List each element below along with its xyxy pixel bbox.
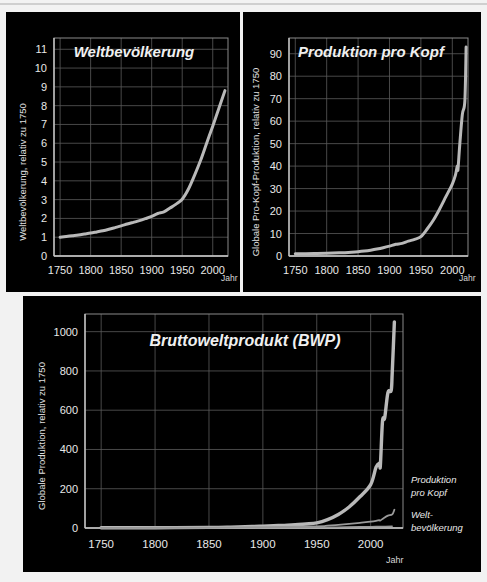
xaxis-unit-bruttoweltprodukt: Jahr	[386, 555, 404, 565]
legend-item-per-capita-line2: pro Kopf	[410, 487, 448, 498]
y-tick-label: 60	[270, 115, 282, 127]
series-line-bruttoweltprodukt-bwp-	[101, 322, 394, 528]
xtick-labels-produktion-pro-kopf: 175018001850190019502000	[283, 264, 465, 276]
y-tick-label: 800	[60, 365, 78, 377]
y-tick-label: 1000	[54, 326, 78, 338]
plot-frame	[54, 38, 228, 256]
x-tick-label: 1750	[88, 538, 114, 550]
y-tick-label: 0	[41, 250, 47, 262]
xtick-labels-bruttoweltprodukt: 175018001850190019502000	[88, 538, 383, 550]
y-tick-label: 600	[60, 404, 78, 416]
ytick-labels-bruttoweltprodukt: 02004006008001000	[54, 326, 78, 534]
y-tick-label: 0	[72, 522, 78, 534]
yaxis-label-weltbevoelkerung: Weltbevölkerung, relativ zu 1750	[17, 103, 28, 241]
top-divider-rule	[0, 3, 487, 5]
series-group-bruttoweltprodukt	[101, 322, 394, 528]
y-tick-label: 90	[270, 48, 282, 60]
axis-group-produktion-pro-kopf	[289, 38, 468, 256]
axis-group-weltbevoelkerung	[54, 38, 228, 256]
grid-group-produktion-pro-kopf	[289, 38, 468, 256]
series-line-weltbev-lkerung	[60, 91, 225, 238]
chart-title-weltbevoelkerung: Weltbevölkerung	[74, 43, 195, 60]
y-tick-label: 5	[41, 156, 47, 168]
xaxis-unit-produktion-pro-kopf: Jahr	[459, 273, 476, 283]
legend-bruttoweltprodukt: Produktion pro Kopf Welt- bevölkerung	[410, 474, 463, 533]
ytick-labels-weltbevoelkerung: 01234567891011	[35, 43, 47, 262]
panel-produktion-pro-kopf: 0102030405060708090 17501800185019001950…	[243, 12, 481, 292]
x-tick-label: 1750	[48, 264, 72, 276]
legend-item-population-line1: Welt-	[411, 509, 433, 520]
chart-weltbevoelkerung: 01234567891011 175018001850190019502000 …	[6, 12, 240, 292]
panel-bruttoweltprodukt: 02004006008001000 1750180018501900195020…	[23, 296, 481, 572]
x-tick-label: 1850	[196, 538, 222, 550]
y-tick-label: 50	[270, 138, 282, 150]
figure-root: 01234567891011 175018001850190019502000 …	[0, 0, 487, 582]
yaxis-label-bruttoweltprodukt: Globale Produktion, relativ zu 1750	[36, 362, 47, 510]
x-tick-label: 1800	[78, 264, 102, 276]
y-tick-label: 1	[41, 231, 47, 243]
chart-title-produktion-pro-kopf: Produktion pro Kopf	[298, 43, 446, 60]
x-tick-label: 1950	[304, 538, 330, 550]
x-tick-label: 1800	[142, 538, 168, 550]
xaxis-unit-weltbevoelkerung: Jahr	[221, 273, 238, 283]
y-tick-label: 70	[270, 93, 282, 105]
y-tick-label: 20	[270, 205, 282, 217]
y-tick-label: 8	[41, 100, 47, 112]
series-group-produktion-pro-kopf	[295, 47, 466, 254]
y-tick-label: 9	[41, 81, 47, 93]
grid-group-weltbevoelkerung	[54, 38, 228, 256]
y-tick-label: 10	[270, 228, 282, 240]
y-tick-label: 0	[276, 250, 282, 262]
x-tick-label: 2000	[358, 538, 384, 550]
chart-produktion-pro-kopf: 0102030405060708090 17501800185019001950…	[243, 12, 481, 292]
series-group-weltbevoelkerung	[60, 91, 225, 238]
x-tick-label: 1850	[109, 264, 133, 276]
panel-weltbevoelkerung: 01234567891011 175018001850190019502000 …	[6, 12, 240, 292]
xtick-labels-weltbevoelkerung: 175018001850190019502000	[48, 264, 225, 276]
plot-frame	[289, 38, 468, 256]
legend-item-population-line2: bevölkerung	[411, 522, 463, 533]
y-tick-label: 11	[36, 43, 47, 55]
x-tick-label: 1900	[139, 264, 163, 276]
chart-title-bruttoweltprodukt: Bruttoweltprodukt (BWP)	[149, 332, 340, 349]
x-tick-label: 1750	[283, 264, 307, 276]
y-tick-label: 4	[41, 175, 47, 187]
x-tick-label: 1950	[170, 264, 194, 276]
y-tick-label: 10	[35, 62, 47, 74]
x-tick-label: 1800	[314, 264, 338, 276]
y-tick-label: 40	[270, 160, 282, 172]
y-tick-label: 400	[60, 443, 78, 455]
ytick-labels-produktion-pro-kopf: 0102030405060708090	[270, 48, 282, 262]
y-tick-label: 6	[41, 137, 47, 149]
y-tick-label: 7	[41, 118, 47, 130]
y-tick-label: 200	[60, 483, 78, 495]
y-tick-label: 80	[270, 70, 282, 82]
legend-item-per-capita-line1: Produktion	[411, 474, 456, 485]
y-tick-label: 2	[41, 212, 47, 224]
x-tick-label: 1900	[377, 264, 401, 276]
x-tick-label: 1850	[346, 264, 370, 276]
x-tick-label: 1900	[250, 538, 276, 550]
y-tick-label: 3	[41, 194, 47, 206]
x-tick-label: 1950	[409, 264, 433, 276]
series-line-produktion-pro-kopf	[295, 47, 466, 254]
yaxis-label-produktion-pro-kopf: Globale Pro-Kopf-Produktion, relativ zu …	[250, 68, 261, 257]
chart-bruttoweltprodukt: 02004006008001000 1750180018501900195020…	[23, 296, 481, 572]
y-tick-label: 30	[270, 183, 282, 195]
